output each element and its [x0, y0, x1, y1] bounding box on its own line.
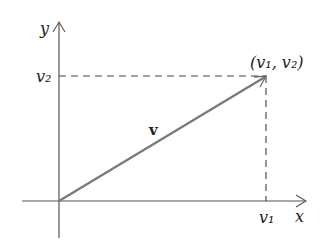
vector-tip-label: (v₁, v₂) [250, 53, 304, 72]
x-axis-label: x [295, 207, 304, 226]
vector-label: v [148, 121, 159, 139]
y-axis-label: y [39, 19, 50, 38]
vector-v [59, 76, 266, 201]
v1-tick-label: v₁ [259, 208, 274, 227]
y-axis [53, 22, 65, 238]
v2-tick-label: v₂ [36, 67, 51, 86]
vector-diagram: y v₂ (v₁, v₂) v v₁ x [0, 0, 331, 251]
